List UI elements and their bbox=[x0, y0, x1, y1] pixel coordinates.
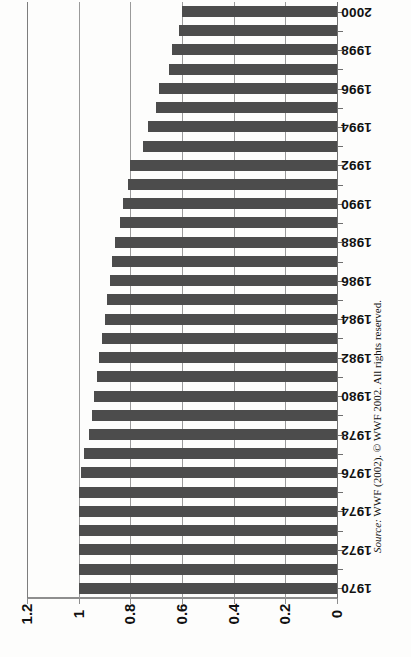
bar-row bbox=[27, 406, 337, 425]
bar-1971 bbox=[79, 564, 337, 575]
bar-1977 bbox=[84, 448, 337, 459]
chart-figure: Source: WWF (2002). © WWF 2002. All righ… bbox=[0, 0, 411, 657]
bar-1999 bbox=[179, 25, 337, 36]
y-tick bbox=[337, 223, 343, 224]
year-label-1998: 1998 bbox=[341, 42, 405, 58]
bar-1986 bbox=[110, 275, 337, 286]
bar-1995 bbox=[156, 102, 337, 113]
bar-1972 bbox=[79, 544, 337, 555]
bar-1982 bbox=[99, 352, 337, 363]
bar-1973 bbox=[79, 525, 337, 536]
bar-row bbox=[27, 483, 337, 502]
y-tick bbox=[337, 146, 343, 147]
year-label-1994: 1994 bbox=[341, 119, 405, 135]
y-tick bbox=[337, 185, 343, 186]
y-tick bbox=[337, 108, 343, 109]
y-tick bbox=[337, 377, 343, 378]
x-tick-label-0.2: 0.2 bbox=[277, 594, 293, 634]
bar-1987 bbox=[112, 256, 337, 267]
bar-row bbox=[27, 425, 337, 444]
y-tick bbox=[337, 531, 343, 532]
bar-1979 bbox=[92, 410, 337, 421]
bar-row bbox=[27, 21, 337, 40]
year-label-1982: 1982 bbox=[341, 350, 405, 366]
bar-1990 bbox=[123, 198, 337, 209]
bar-1996 bbox=[159, 83, 337, 94]
bar-1980 bbox=[94, 391, 337, 402]
year-label-1996: 1996 bbox=[341, 81, 405, 97]
bar-row bbox=[27, 213, 337, 232]
year-label-2000: 2000 bbox=[341, 4, 405, 20]
bar-1985 bbox=[107, 294, 337, 305]
bar-row bbox=[27, 252, 337, 271]
bar-1978 bbox=[89, 429, 337, 440]
bar-row bbox=[27, 233, 337, 252]
year-label-1980: 1980 bbox=[341, 388, 405, 404]
y-tick bbox=[337, 300, 343, 301]
y-tick bbox=[337, 454, 343, 455]
bar-row bbox=[27, 156, 337, 175]
x-tick-label-0.8: 0.8 bbox=[122, 594, 138, 634]
bar-1997 bbox=[169, 64, 337, 75]
bar-row bbox=[27, 367, 337, 386]
bar-1975 bbox=[79, 487, 337, 498]
bar-1989 bbox=[120, 217, 337, 228]
y-tick bbox=[337, 569, 343, 570]
bar-1974 bbox=[79, 506, 337, 517]
bar-row bbox=[27, 310, 337, 329]
bar-1981 bbox=[97, 371, 337, 382]
bar-row bbox=[27, 521, 337, 540]
bar-1983 bbox=[102, 333, 337, 344]
bar-row bbox=[27, 560, 337, 579]
year-label-1976: 1976 bbox=[341, 465, 405, 481]
bar-row bbox=[27, 329, 337, 348]
plot-area bbox=[27, 2, 337, 598]
y-tick bbox=[337, 338, 343, 339]
year-label-1972: 1972 bbox=[341, 542, 405, 558]
y-tick bbox=[337, 492, 343, 493]
bar-row bbox=[27, 137, 337, 156]
x-tick-label-1: 1 bbox=[71, 594, 87, 634]
bar-1988 bbox=[115, 237, 337, 248]
bar-row bbox=[27, 540, 337, 559]
year-label-1986: 1986 bbox=[341, 273, 405, 289]
year-label-1988: 1988 bbox=[341, 234, 405, 250]
y-tick bbox=[337, 69, 343, 70]
bar-row bbox=[27, 40, 337, 59]
bar-1970 bbox=[79, 583, 337, 594]
bar-row bbox=[27, 98, 337, 117]
x-tick-label-0.4: 0.4 bbox=[226, 594, 242, 634]
y-tick bbox=[337, 415, 343, 416]
bar-row bbox=[27, 348, 337, 367]
bar-row bbox=[27, 271, 337, 290]
x-tick-label-0: 0 bbox=[329, 594, 345, 634]
bar-row bbox=[27, 444, 337, 463]
bar-row bbox=[27, 175, 337, 194]
x-tick-label-0.6: 0.6 bbox=[174, 594, 190, 634]
bar-row bbox=[27, 60, 337, 79]
bar-row bbox=[27, 463, 337, 482]
source-text: WWF (2002). © WWF 2002. All rights reser… bbox=[371, 300, 383, 517]
bar-1991 bbox=[128, 179, 337, 190]
bar-1998 bbox=[172, 44, 337, 55]
bar-row bbox=[27, 502, 337, 521]
y-tick bbox=[337, 262, 343, 263]
bar-1993 bbox=[143, 141, 337, 152]
bar-row bbox=[27, 79, 337, 98]
year-label-1974: 1974 bbox=[341, 503, 405, 519]
bar-row bbox=[27, 117, 337, 136]
bar-row bbox=[27, 290, 337, 309]
bar-2000 bbox=[182, 6, 337, 17]
x-tick-label-1.2: 1.2 bbox=[19, 594, 35, 634]
year-label-1992: 1992 bbox=[341, 157, 405, 173]
bar-row bbox=[27, 2, 337, 21]
bar-1984 bbox=[105, 314, 338, 325]
year-label-1984: 1984 bbox=[341, 311, 405, 327]
bar-1976 bbox=[81, 467, 337, 478]
year-label-1970: 1970 bbox=[341, 580, 405, 596]
y-tick bbox=[337, 31, 343, 32]
bar-row bbox=[27, 194, 337, 213]
bar-1992 bbox=[130, 160, 337, 171]
bar-1994 bbox=[148, 121, 337, 132]
year-label-1990: 1990 bbox=[341, 196, 405, 212]
